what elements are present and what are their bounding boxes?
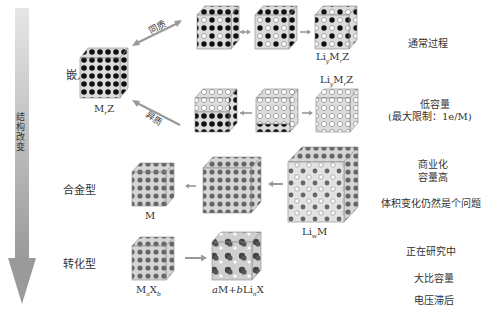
alloy-product-label: LiwM	[302, 226, 327, 239]
top-product-label: LiyMrZ	[316, 51, 349, 64]
cube-alloy-mid	[203, 157, 261, 213]
cube-top-3	[315, 6, 357, 49]
note-conversion-1: 正在研究中	[406, 245, 456, 258]
conversion-product-label: aM+bLinX	[212, 284, 264, 297]
cube-alloy-host	[132, 163, 174, 206]
note-conversion-2: 大比容量	[414, 272, 454, 285]
insertion-host-label: MrZ	[94, 103, 114, 116]
cube-alloy-product	[288, 147, 358, 222]
note-insertion-bottom-2: (最大限制：1e/M)	[388, 110, 472, 123]
cube-bottom-1	[195, 89, 237, 132]
note-alloy-3: 体积变化仍然是个问题	[381, 197, 481, 210]
cube-conversion-host	[132, 237, 174, 280]
conversion-host-label: MaXb	[136, 284, 161, 297]
note-insertion-top: 通常过程	[408, 37, 448, 50]
cube-top-1	[197, 6, 239, 49]
note-alloy-2: 容量高	[418, 171, 448, 184]
bottom-product-label: LiyMrZ	[320, 74, 353, 87]
cube-bottom-2	[256, 89, 298, 132]
cube-bottom-3	[316, 89, 358, 132]
note-alloy-1: 商业化	[418, 158, 448, 171]
note-conversion-3: 电压滞后	[414, 294, 454, 307]
cube-conversion-product	[212, 232, 261, 280]
alloy-host-label: M	[145, 210, 155, 221]
cube-top-2	[255, 6, 297, 49]
cube-insertion-host	[80, 48, 128, 98]
